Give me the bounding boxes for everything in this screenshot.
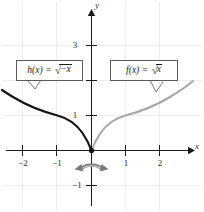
x-tick-label-2: 2	[152, 159, 168, 168]
y-tick-label-3: 3	[68, 41, 82, 50]
x-tick-label-1: 1	[118, 159, 134, 168]
y-tick-label-1: 1	[68, 111, 82, 120]
callout-f-radicand: x	[156, 64, 162, 75]
leader-line-right	[150, 80, 163, 92]
leader-line-left	[28, 80, 41, 89]
callout-h-of-x: h(x) = √−x	[16, 60, 83, 81]
callout-h-equals: =	[43, 66, 54, 76]
origin-point	[89, 148, 94, 153]
reflection-arrow-head-left	[75, 164, 84, 172]
y-axis-arrowhead	[88, 9, 95, 16]
plot-canvas	[0, 0, 204, 212]
x-axis-arrowhead	[188, 147, 195, 154]
callout-h-radical: √−x	[54, 65, 72, 76]
y-tick-label-minus1: −1	[68, 181, 86, 190]
x-tick-label-minus2: −2	[13, 159, 33, 168]
callout-f-radical: √x	[151, 65, 162, 76]
callout-f-of-x: f(x) = √x	[110, 60, 178, 81]
y-axis-label: y	[95, 1, 99, 10]
y-axis	[88, 9, 95, 206]
x-axis-label: x	[195, 142, 199, 151]
reflection-arrow-head-right	[100, 164, 109, 172]
callout-f-equals: =	[139, 66, 150, 76]
callout-h-radicand: −x	[59, 64, 72, 75]
x-axis	[6, 147, 195, 154]
x-tick-label-minus1: −1	[47, 159, 67, 168]
callout-h-function-name: h(x)	[27, 66, 42, 76]
callout-f-function-name: f(x)	[126, 66, 139, 76]
curve-h-sqrt-neg-x	[2, 90, 92, 151]
graph-figure: x y −2 −1 1 2 3 1 −1 h(x) = √−x f(x) = √…	[0, 0, 204, 212]
